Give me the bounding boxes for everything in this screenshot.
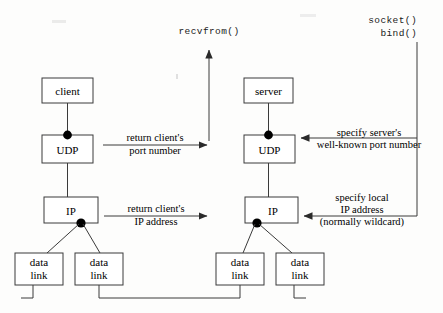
socket-call-label: socket() xyxy=(368,15,417,26)
network-medium-line xyxy=(99,285,240,298)
client-datalink-2-line2: link xyxy=(90,269,108,281)
client-ip-to-datalink2-line xyxy=(83,224,100,253)
bind-call-label: bind() xyxy=(380,28,417,39)
server-datalink-2-line2: link xyxy=(291,269,309,281)
client-datalink-1-line2: link xyxy=(30,269,48,281)
server-ip-label-line3: (normally wildcard) xyxy=(320,216,405,228)
client-port-label-line2: port number xyxy=(129,145,181,156)
client-app-label: client xyxy=(55,85,79,97)
client-ip-label-line1: return client's xyxy=(128,203,185,214)
server-datalink-2-stub xyxy=(294,285,306,298)
server-datalink-1-line1: data xyxy=(231,256,249,268)
annotation-client-port: return client's port number xyxy=(103,132,207,156)
recvfrom-call-label: recvfrom() xyxy=(178,26,239,37)
client-datalink-1-line1: data xyxy=(30,256,48,268)
client-datalink-2-line1: data xyxy=(90,256,108,268)
client-stack: client UDP IP data link data link xyxy=(15,78,123,298)
server-port-label-line2: well-known port number xyxy=(317,139,422,150)
server-datalink-1-line2: link xyxy=(231,269,249,281)
server-stack: server UDP IP data link data link xyxy=(216,78,324,298)
client-port-label-line1: return client's xyxy=(127,132,184,143)
server-call-flow: socket() bind() xyxy=(368,15,417,216)
server-udp-junction-dot xyxy=(264,131,273,140)
client-ip-to-datalink1-line xyxy=(47,224,79,253)
udp-socket-flow-diagram: client UDP IP data link data link server xyxy=(0,0,443,313)
client-udp-label: UDP xyxy=(56,144,78,156)
client-udp-junction-dot xyxy=(63,131,72,140)
server-datalink-2-line1: data xyxy=(291,256,309,268)
server-port-label-line1: specify server's xyxy=(337,127,402,138)
server-ip-label: IP xyxy=(268,205,278,217)
annotation-client-ip: return client's IP address xyxy=(104,203,207,227)
server-ip-to-datalink1-line xyxy=(243,224,255,253)
server-app-label: server xyxy=(255,85,282,97)
server-ip-label-line2: IP address xyxy=(340,204,383,215)
server-udp-label: UDP xyxy=(258,144,280,156)
annotation-server-port: specify server's well-known port number xyxy=(301,127,422,150)
diagram-canvas: client UDP IP data link data link server xyxy=(0,0,443,313)
client-ip-label: IP xyxy=(66,205,76,217)
server-ip-label-line1: specify local xyxy=(335,192,388,203)
client-call-flow: recvfrom() xyxy=(178,26,239,141)
scan-noise xyxy=(52,14,316,79)
annotation-server-ip: specify local IP address (normally wildc… xyxy=(304,192,417,228)
client-ip-label-line2: IP address xyxy=(134,216,177,227)
client-datalink-1-stub xyxy=(21,285,33,298)
server-ip-to-datalink2-line xyxy=(259,224,292,253)
